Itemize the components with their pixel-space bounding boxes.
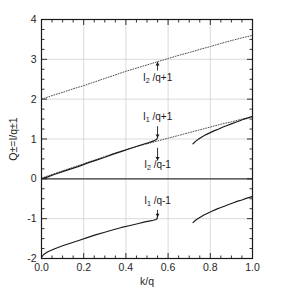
chart-figure: 0.00.20.40.60.81.0-2-101234k/qQ±=I/q±1I2… [0,0,286,296]
xtick-label-2: 0.4 [119,261,134,273]
x-axis-title: k/q [140,275,154,287]
ytick-label-1: -1 [27,212,36,224]
plot-canvas: 0.00.20.40.60.81.0-2-101234k/qQ±=I/q±1I2… [0,0,286,296]
ytick-label-2: 0 [31,172,37,184]
ytick-label-4: 2 [31,93,37,105]
y-axis-title: Q±=I/q±1 [7,117,19,160]
xtick-label-1: 0.2 [76,261,91,273]
ytick-label-6: 4 [31,13,37,25]
xtick-label-5: 1.0 [245,261,260,273]
ytick-label-5: 3 [31,53,37,65]
xtick-label-4: 0.8 [203,261,218,273]
svg-text:Q±=I/q±1: Q±=I/q±1 [7,117,19,160]
ytick-label-3: 1 [31,133,37,145]
xtick-label-3: 0.6 [161,261,176,273]
ytick-label-0: -2 [27,252,36,264]
